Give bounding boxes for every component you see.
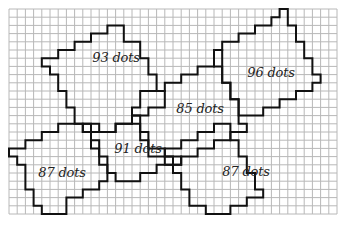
shape-label-87-dots-left: 87 dots xyxy=(38,165,85,180)
shape-label-91-dots: 91 dots xyxy=(114,141,161,156)
shape-label-93-dots: 93 dots xyxy=(92,50,139,65)
grid-canvas xyxy=(0,0,340,226)
shape-label-85-dots: 85 dots xyxy=(176,101,223,116)
dot-grid-diagram: 93 dots 96 dots 85 dots 91 dots 87 dots … xyxy=(0,0,340,226)
shape-label-96-dots: 96 dots xyxy=(247,65,294,80)
shape-label-87-dots-right: 87 dots xyxy=(222,164,269,179)
grid-lines xyxy=(9,9,337,214)
